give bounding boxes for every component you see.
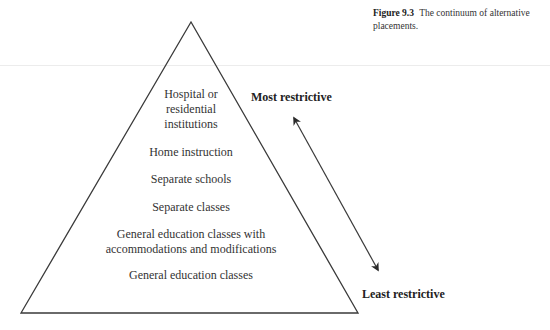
placement-continuum-figure: Figure 9.3 The continuum of alternative …	[0, 0, 550, 330]
tier-general-ed-with-accommodations: General education classes with accommoda…	[61, 227, 321, 257]
least-restrictive-label: Least restrictive	[362, 287, 445, 302]
tier-text-line: General education classes	[61, 268, 321, 283]
tier-text-line: institutions	[91, 117, 291, 132]
most-restrictive-label: Most restrictive	[251, 90, 332, 105]
tier-text-line: accommodations and modifications	[61, 242, 321, 257]
tier-separate-schools: Separate schools	[91, 172, 291, 187]
tier-text-line: Home instruction	[91, 145, 291, 160]
figure-caption: Figure 9.3 The continuum of alternative …	[373, 7, 550, 33]
figure-number: Figure 9.3	[373, 8, 414, 18]
tier-text-line: Separate classes	[91, 200, 291, 215]
tier-separate-classes: Separate classes	[91, 200, 291, 215]
tier-text-line: General education classes with	[61, 227, 321, 242]
tier-text-line: Separate schools	[91, 172, 291, 187]
tier-home-instruction: Home instruction	[91, 145, 291, 160]
tier-general-ed-classes: General education classes	[61, 268, 321, 283]
